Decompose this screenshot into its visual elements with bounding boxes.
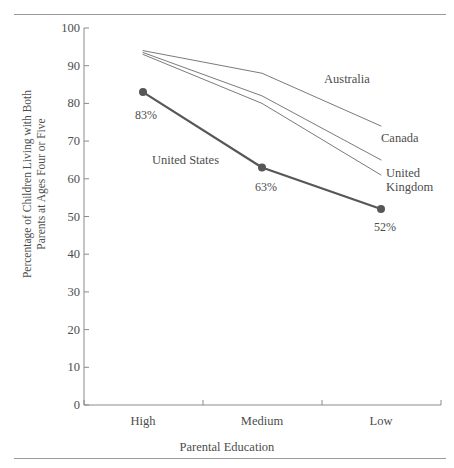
- x-axis-ticks: [84, 400, 441, 405]
- data-point-marker: [258, 163, 266, 171]
- y-axis-ticks: [84, 28, 89, 405]
- series-united-states: [139, 88, 385, 213]
- chart-plot-area: [0, 0, 454, 468]
- data-point-marker: [377, 205, 385, 213]
- series-layer: [139, 51, 385, 213]
- series-line: [143, 92, 381, 209]
- data-point-marker: [139, 88, 147, 96]
